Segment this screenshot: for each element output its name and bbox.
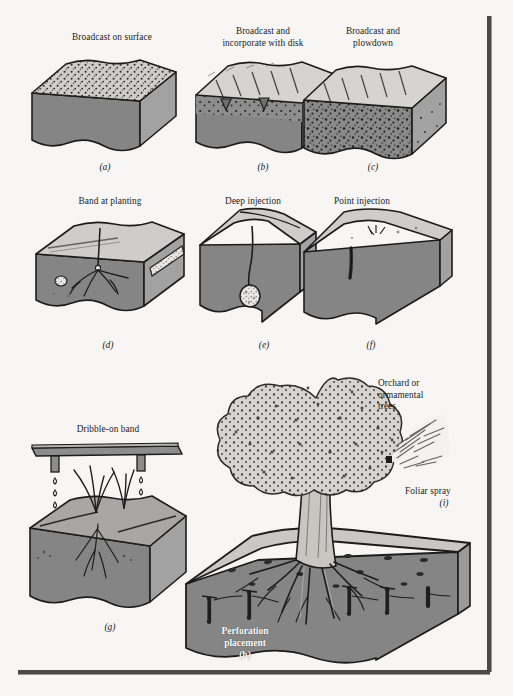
panel-g-label: Dribble-on band — [48, 424, 168, 436]
panel-e-label: Deep injection — [203, 196, 303, 208]
panel-h-label: Perforation placement — [186, 625, 304, 649]
panel-i-label: Foliar spray — [405, 486, 489, 498]
panel-c-label: Broadcast and plowdown — [318, 26, 428, 49]
panel-f-label: Point injection — [312, 196, 412, 208]
panel-h-illustration — [186, 378, 470, 663]
panel-b-label: Broadcast and incorporate with disk — [198, 26, 328, 49]
panel-d-letter: (d) — [88, 340, 128, 350]
panel-c-illustration — [304, 66, 446, 159]
right-border-rule — [487, 16, 491, 672]
panel-a-illustration — [32, 60, 176, 151]
fertilizer-placement-figure: Broadcast on surface (a) Broadcast and i… — [0, 0, 513, 696]
panel-h-letter: (h) — [186, 649, 304, 661]
panel-f-letter: (f) — [351, 340, 391, 350]
orchard-trees-annotation: Orchard or ormamental trees — [378, 378, 488, 413]
panel-f-illustration — [304, 209, 452, 324]
panel-a-label: Broadcast on surface — [42, 32, 182, 44]
bottom-border-rule — [18, 670, 490, 674]
panel-d-label: Band at planting — [50, 196, 170, 208]
panel-a-letter: (a) — [85, 162, 125, 172]
panel-b-letter: (b) — [243, 162, 283, 172]
panel-d-illustration — [36, 222, 184, 311]
panel-g-letter: (g) — [90, 622, 130, 632]
panel-c-letter: (c) — [353, 162, 393, 172]
panel-g-illustration — [30, 443, 186, 607]
panel-e-illustration — [200, 209, 316, 322]
panel-i-letter: (i) — [424, 498, 464, 508]
panel-e-letter: (e) — [244, 340, 284, 350]
